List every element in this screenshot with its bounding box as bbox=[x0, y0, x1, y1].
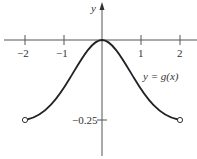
chart: y −2 −1 1 2 −0.25 y = g(x) bbox=[0, 0, 197, 159]
curve-label: y = g(x) bbox=[142, 70, 179, 83]
y-axis-arrow-icon bbox=[100, 2, 105, 10]
x-tick-label: −1 bbox=[56, 47, 68, 59]
open-endpoint-right bbox=[177, 117, 182, 122]
y-tick-label: −0.25 bbox=[72, 114, 98, 126]
plot-area: y −2 −1 1 2 −0.25 y = g(x) bbox=[0, 0, 197, 159]
x-tick-label: 1 bbox=[138, 47, 144, 59]
open-endpoint-left bbox=[22, 117, 27, 122]
y-axis-label: y bbox=[90, 2, 96, 14]
x-tick-label: −2 bbox=[17, 47, 29, 59]
x-tick-label: 2 bbox=[177, 47, 183, 59]
